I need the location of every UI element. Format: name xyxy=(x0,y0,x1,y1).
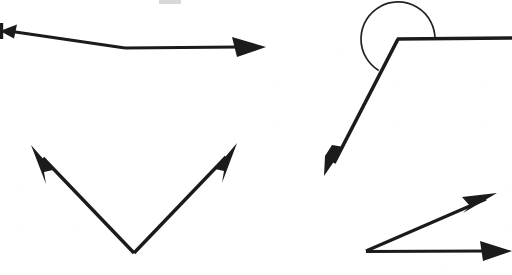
v-ray-up-left-shaft xyxy=(43,158,134,253)
angle-ray-right-shaft xyxy=(397,38,512,39)
arrowhead-narrow-right-icon xyxy=(480,241,512,261)
arrowhead-down-left-icon xyxy=(324,145,344,176)
figure-top-right xyxy=(324,2,512,176)
reflex-angle-arc xyxy=(361,2,435,71)
ray-left-shaft xyxy=(12,32,125,49)
figure-page xyxy=(0,0,512,275)
v-ray-up-right-shaft xyxy=(134,157,226,253)
ray-right-shaft xyxy=(125,47,240,48)
arrowhead-right-icon xyxy=(232,37,266,57)
narrow-ray-upper-shaft xyxy=(366,199,486,251)
left-edge-tail xyxy=(0,23,3,39)
narrow-ray-lower-shaft xyxy=(366,251,487,252)
figure-bottom-right xyxy=(366,193,512,261)
arrowhead-narrow-up-right-icon xyxy=(462,193,497,213)
geometry-figures-canvas xyxy=(0,0,512,275)
cut-off-mark xyxy=(159,0,181,4)
figure-top-left xyxy=(0,23,266,57)
figure-bottom-left xyxy=(31,143,237,253)
